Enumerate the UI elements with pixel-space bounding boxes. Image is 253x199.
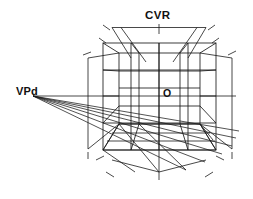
construction-left-upper xyxy=(88,53,119,58)
label-cvr: CVR xyxy=(145,9,171,21)
construction-left-lower xyxy=(88,124,119,149)
tick-upper-left-inner xyxy=(99,38,106,43)
floor-edge-right xyxy=(200,124,216,150)
orthogonal-side-right-c xyxy=(200,106,216,123)
tick-lower-left-inner xyxy=(96,156,104,160)
orthogonal-top-a xyxy=(131,43,139,53)
orthogonal-top-c xyxy=(180,43,188,53)
floor-edge-left xyxy=(103,124,119,150)
tick-bottom-left xyxy=(106,172,114,177)
vpd-ray-2 xyxy=(33,96,236,138)
tick-top-left xyxy=(103,25,110,30)
tick-upper-right-inner xyxy=(212,38,219,43)
front-plane-group xyxy=(103,43,216,150)
label-origin: O xyxy=(163,87,171,99)
bottom-spread-left xyxy=(112,160,159,172)
vpd-ray-4 xyxy=(33,96,222,154)
tick-lower-right-inner xyxy=(216,156,224,160)
perspective-grid-svg: CVR VPd O xyxy=(0,0,253,199)
orthogonal-group xyxy=(103,43,216,150)
front-plane-outline xyxy=(103,43,216,150)
floor-diagonal-c xyxy=(103,150,135,172)
perspective-diagram: CVR VPd O xyxy=(0,0,253,199)
tick-bottom-right xyxy=(205,172,213,177)
vpd-ray-1 xyxy=(33,96,239,131)
measuring-frame-group xyxy=(83,24,236,180)
label-vpd: VPd xyxy=(16,85,38,97)
orthogonal-top-right xyxy=(200,43,216,53)
orthogonal-top-left xyxy=(103,43,119,53)
tick-right-top xyxy=(228,51,236,55)
construction-top-right-outer xyxy=(173,28,197,63)
floor-diagonal-b xyxy=(139,124,186,170)
vpd-ray-3 xyxy=(33,96,232,146)
construction-line-group xyxy=(88,28,232,173)
tick-top-right xyxy=(208,25,215,30)
bottom-spread-right xyxy=(159,160,206,172)
tick-left-top xyxy=(83,52,91,55)
construction-top-left-outer xyxy=(121,28,146,63)
